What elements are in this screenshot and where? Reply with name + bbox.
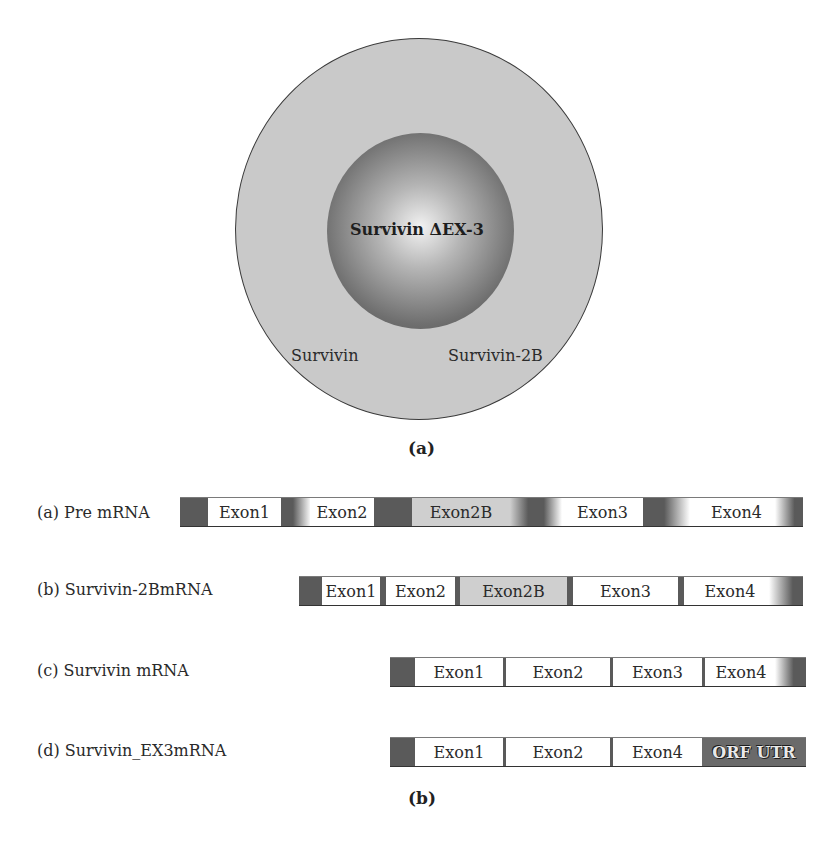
intron-gradient (510, 498, 562, 526)
exon-segment: Exon4 (684, 577, 776, 605)
row-label-survivin-2b-mrna: (b) Survivin-2BmRNA (37, 580, 212, 599)
exon-segment: Exon3 (613, 658, 702, 686)
exon-segment: Exon1 (415, 658, 503, 686)
pre-mrna-bar: Exon1 Exon2 Exon2B Exon3 Exon4 (180, 497, 803, 527)
orf-utr-segment: ORF UTR (702, 738, 806, 766)
intron-gradient (281, 498, 311, 526)
exon-segment: Exon3 (573, 577, 678, 605)
exon-segment: Exon4 (690, 498, 783, 526)
intron-gradient (769, 577, 803, 605)
survivin-label: Survivin (291, 346, 359, 365)
intron-gradient (775, 498, 803, 526)
exon-segment: Exon4 (613, 738, 702, 766)
row-label-pre-mrna: (a) Pre mRNA (37, 503, 150, 522)
panel-a-label: (a) (408, 438, 435, 458)
row-label-survivin-mrna: (c) Survivin mRNA (37, 661, 189, 680)
exon-segment: Exon2 (310, 498, 374, 526)
exon-2b-segment: Exon2B (412, 498, 510, 526)
exon-segment: Exon2 (386, 577, 455, 605)
survivin-mrna-bar: Exon1 Exon2 Exon3 Exon4 (390, 657, 806, 687)
exon-segment: Exon2 (506, 658, 610, 686)
exon-segment: Exon1 (208, 498, 281, 526)
exon-segment: Exon2 (506, 738, 610, 766)
intron-gradient (643, 498, 690, 526)
intron-gradient (775, 658, 806, 686)
survivin-ex3-mrna-bar: Exon1 Exon2 Exon4 ORF UTR (390, 737, 806, 767)
center-label: Survivin ΔEX-3 (350, 220, 484, 239)
panel-b-label: (b) (408, 788, 436, 808)
exon-segment: Exon1 (415, 738, 503, 766)
row-label-survivin-ex3-mrna: (d) Survivin_EX3mRNA (37, 741, 226, 760)
exon-segment: Exon3 (562, 498, 643, 526)
exon-segment: Exon4 (705, 658, 777, 686)
exon-segment: Exon1 (322, 577, 380, 605)
exon-2b-segment: Exon2B (460, 577, 567, 605)
survivin-2b-mrna-bar: Exon1 Exon2 Exon2B Exon3 Exon4 (299, 576, 803, 606)
survivin-2b-label: Survivin-2B (448, 346, 543, 365)
